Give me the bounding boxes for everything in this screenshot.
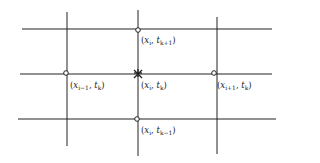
node-top-circle-icon (136, 28, 141, 33)
label-node-bottom: (xi, tk−1) (141, 126, 176, 136)
label-node-right: (xi+1, tk) (217, 81, 252, 91)
node-center-star-icon (134, 69, 142, 78)
label-node-left: (xi−1, tk) (70, 81, 105, 91)
label-node-center: (xi, tk) (141, 81, 167, 91)
node-left-circle-icon (64, 71, 69, 76)
node-right-circle-icon (212, 71, 217, 76)
label-node-top: (xi, tk+1) (141, 36, 176, 46)
node-bottom-circle-icon (135, 117, 140, 122)
